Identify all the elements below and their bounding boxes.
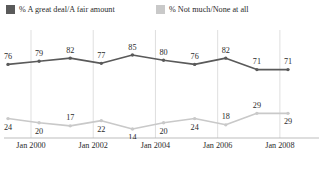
data-point [162, 121, 165, 124]
data-point [6, 63, 9, 66]
data-point [131, 53, 134, 56]
data-label: 76 [191, 52, 199, 61]
data-point [255, 112, 258, 115]
data-point [255, 68, 258, 71]
data-label: 82 [222, 46, 230, 55]
x-tick-label-0: Jan 2000 [16, 141, 45, 150]
data-label: 14 [128, 133, 136, 139]
data-label: 29 [253, 101, 261, 110]
data-point [69, 124, 72, 127]
data-label: 79 [35, 49, 43, 58]
legend-swatch-great-deal [6, 5, 15, 14]
data-label: 29 [284, 117, 292, 126]
data-point [224, 56, 227, 59]
x-tick-label-2: Jan 2004 [141, 141, 170, 150]
line-chart-svg: 2420172214202418292976798277858076827171 [0, 24, 323, 139]
legend-label-great-deal: % A great deal/A fair amount [19, 5, 115, 14]
data-label: 80 [159, 48, 167, 57]
series-line-1 [8, 113, 288, 129]
data-point [37, 60, 40, 63]
x-tick-label-3: Jan 2006 [203, 141, 232, 150]
legend-label-not-much: % Not much/None at all [169, 5, 249, 14]
data-point [193, 63, 196, 66]
data-label: 22 [97, 125, 105, 134]
data-point [6, 117, 9, 120]
data-point [69, 56, 72, 59]
data-label: 82 [66, 46, 74, 55]
data-label: 20 [35, 127, 43, 136]
data-label: 24 [191, 123, 199, 132]
chart-root: % A great deal/A fair amount % Not much/… [0, 0, 323, 171]
data-point [193, 117, 196, 120]
data-label: 18 [222, 112, 230, 121]
plot-area: 2420172214202418292976798277858076827171 [0, 24, 323, 139]
data-point [131, 127, 134, 130]
x-tick-label-4: Jan 2008 [265, 141, 294, 150]
data-point [286, 68, 289, 71]
x-tick-label-1: Jan 2002 [79, 141, 108, 150]
x-axis-labels: Jan 2000Jan 2002Jan 2004Jan 2006Jan 2008 [0, 141, 323, 161]
series-line-0 [8, 55, 288, 70]
data-point [37, 121, 40, 124]
data-point [286, 112, 289, 115]
legend-item-not-much: % Not much/None at all [156, 5, 249, 14]
data-point [100, 119, 103, 122]
data-label: 71 [253, 57, 261, 66]
data-point [162, 59, 165, 62]
chart-legend: % A great deal/A fair amount % Not much/… [0, 0, 323, 24]
data-point [224, 123, 227, 126]
data-label: 71 [284, 57, 292, 66]
legend-swatch-not-much [156, 5, 165, 14]
data-label: 76 [4, 52, 12, 61]
data-label: 24 [4, 123, 12, 132]
data-label: 77 [97, 51, 105, 60]
legend-item-great-deal: % A great deal/A fair amount [6, 5, 115, 14]
data-label: 20 [159, 127, 167, 136]
data-label: 17 [66, 113, 74, 122]
data-label: 85 [128, 43, 136, 52]
data-point [100, 62, 103, 65]
